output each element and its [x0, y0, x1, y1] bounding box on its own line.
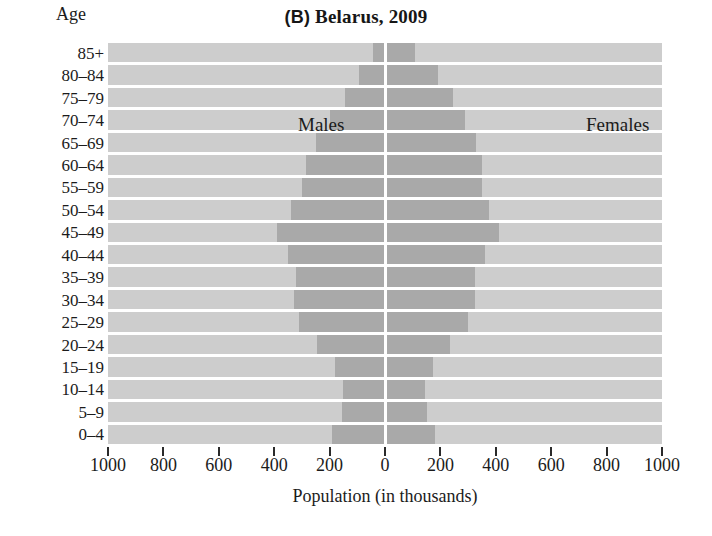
x-axis-tick-label: 400: [244, 455, 304, 476]
x-axis-tick-label: 1000: [632, 455, 692, 476]
bar-male: [296, 267, 385, 286]
bar-male: [342, 402, 385, 421]
y-axis-tick-label: 55–59: [42, 179, 104, 196]
bar-female: [385, 335, 450, 354]
bar-female: [385, 110, 465, 129]
bar-male: [343, 380, 385, 399]
bar-male: [332, 425, 385, 444]
y-axis-tick-label: 60–64: [42, 157, 104, 174]
bar-female: [385, 245, 485, 264]
bar-female: [385, 133, 476, 152]
bar-female: [385, 155, 482, 174]
bar-male: [306, 155, 385, 174]
bar-male: [277, 223, 385, 242]
y-axis-tick-label: 35–39: [42, 269, 104, 286]
zero-axis-line: [384, 43, 387, 447]
bar-male: [288, 245, 385, 264]
y-axis-tick-label: 5–9: [42, 404, 104, 421]
series-label-females: Females: [586, 114, 649, 136]
bar-female: [385, 402, 427, 421]
y-axis-tick-label: 30–34: [42, 292, 104, 309]
bar-female: [385, 88, 453, 107]
y-axis-tick-labels: 85+80–8475–7970–7465–6960–6455–5950–5445…: [40, 43, 104, 447]
y-axis-tick-label: 10–14: [42, 381, 104, 398]
bar-female: [385, 200, 489, 219]
x-axis-title: Population (in thousands): [108, 486, 662, 507]
y-axis-tick-label: 85+: [42, 45, 104, 62]
bar-male: [294, 290, 385, 309]
population-pyramid-figure: (B) Belarus, 2009 Age 85+80–8475–7970–74…: [0, 0, 712, 536]
y-axis-title: Age: [56, 4, 86, 25]
y-axis-tick-label: 50–54: [42, 202, 104, 219]
bar-female: [385, 380, 425, 399]
x-axis-tick-labels: 100080060040020002004006008001000: [0, 455, 712, 481]
bar-female: [385, 425, 435, 444]
x-axis-tick-label: 200: [410, 455, 470, 476]
bar-male: [317, 335, 385, 354]
bar-male: [335, 357, 385, 376]
bar-male: [299, 312, 385, 331]
y-axis-tick-label: 45–49: [42, 224, 104, 241]
x-axis-tick-label: 800: [577, 455, 637, 476]
bar-female: [385, 65, 438, 84]
bar-male: [291, 200, 385, 219]
y-axis-tick-label: 15–19: [42, 359, 104, 376]
bar-female: [385, 223, 499, 242]
bar-female: [385, 178, 482, 197]
y-axis-tick-label: 75–79: [42, 90, 104, 107]
bar-male: [345, 88, 385, 107]
bar-female: [385, 290, 475, 309]
bar-female: [385, 312, 468, 331]
x-axis-tick-label: 800: [133, 455, 193, 476]
y-axis-tick-label: 65–69: [42, 135, 104, 152]
chart-title-text: Belarus, 2009: [310, 6, 427, 27]
x-axis-tick-label: 400: [466, 455, 526, 476]
bar-female: [385, 267, 475, 286]
x-axis-tick-label: 200: [300, 455, 360, 476]
bar-male: [359, 65, 385, 84]
x-axis-tick-label: 600: [521, 455, 581, 476]
x-axis-tick-label: 1000: [78, 455, 138, 476]
y-axis-tick-label: 80–84: [42, 67, 104, 84]
plot-area: Males Females: [108, 43, 662, 447]
y-axis-tick-label: 70–74: [42, 112, 104, 129]
x-axis-tick-label: 0: [355, 455, 415, 476]
panel-letter: (B): [285, 7, 311, 27]
bar-female: [385, 357, 433, 376]
y-axis-tick-label: 40–44: [42, 247, 104, 264]
x-axis-tick-label: 600: [189, 455, 249, 476]
bar-male: [302, 178, 385, 197]
bar-female: [385, 43, 415, 62]
y-axis-tick-label: 25–29: [42, 314, 104, 331]
chart-title: (B) Belarus, 2009: [0, 6, 712, 28]
y-axis-tick-label: 20–24: [42, 337, 104, 354]
series-label-males: Males: [298, 114, 344, 136]
y-axis-tick-label: 0–4: [42, 426, 104, 443]
